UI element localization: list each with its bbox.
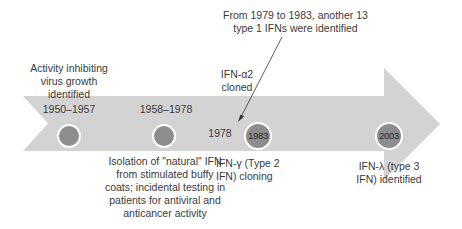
event-1958-node	[152, 124, 176, 148]
desc-line: Activity inhibiting	[24, 62, 114, 75]
desc-line: IFN) cloning	[216, 170, 296, 183]
desc-line: IFN) identified	[349, 173, 429, 186]
desc-line: virus growth	[24, 75, 114, 88]
desc-line: IFN-λ (type 3	[349, 160, 429, 173]
event-1950-description: Activity inhibiting virus growth identif…	[24, 62, 114, 101]
event-1978-date: 1978	[204, 127, 236, 140]
desc-line: IFN-γ (Type 2	[216, 157, 296, 170]
callout-text: From 1979 to 1983, another 13 type 1 IFN…	[221, 9, 371, 35]
event-1978-description: IFN-α2 cloned	[212, 68, 262, 94]
desc-line: identified	[24, 88, 114, 101]
event-2003-description: IFN-λ (type 3 IFN) identified	[349, 160, 429, 186]
event-1958-date: 1958–1978	[131, 103, 201, 116]
ifn-timeline-diagram: From 1979 to 1983, another 13 type 1 IFN…	[0, 0, 462, 229]
event-1983-description: IFN-γ (Type 2 IFN) cloning	[216, 157, 296, 183]
event-1950-date: 1950–1957	[34, 103, 104, 116]
desc-line: IFN-α2	[212, 68, 262, 81]
callout-line-1: From 1979 to 1983, another 13	[221, 9, 371, 22]
event-1950-node	[57, 124, 81, 148]
desc-line: patients for antiviral and	[90, 194, 240, 207]
event-1983-date: 1983	[245, 123, 271, 149]
event-2003-date: 2003	[376, 123, 402, 149]
desc-line: cloned	[212, 81, 262, 94]
desc-line: anticancer activity	[90, 207, 240, 220]
callout-line-2: type 1 IFNs were identified	[221, 22, 371, 35]
